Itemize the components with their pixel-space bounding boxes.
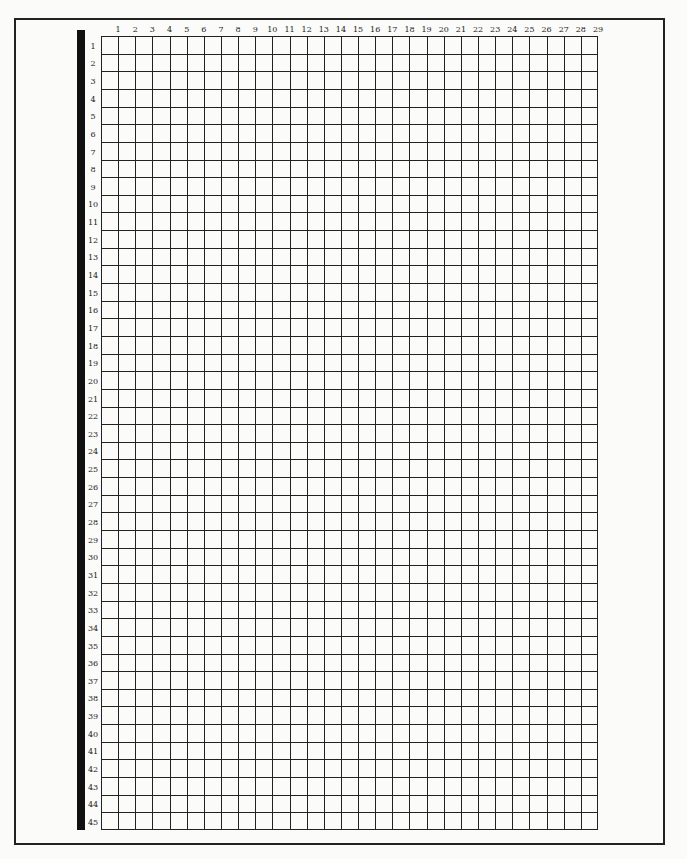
column-label: 28 — [576, 25, 586, 34]
column-label: 8 — [236, 25, 241, 34]
row-label: 20 — [86, 377, 100, 386]
row-label: 4 — [86, 95, 100, 104]
column-label: 14 — [336, 25, 346, 34]
column-label: 19 — [422, 25, 432, 34]
row-label: 27 — [86, 500, 100, 509]
row-label: 42 — [86, 765, 100, 774]
binding-bar — [77, 30, 85, 830]
column-label: 15 — [353, 25, 363, 34]
row-label: 10 — [86, 200, 100, 209]
row-label: 15 — [86, 289, 100, 298]
row-label: 30 — [86, 553, 100, 562]
row-label: 17 — [86, 324, 100, 333]
column-label: 18 — [404, 25, 414, 34]
row-label: 7 — [86, 148, 100, 157]
column-label: 13 — [319, 25, 329, 34]
row-label: 14 — [86, 271, 100, 280]
row-label: 29 — [86, 536, 100, 545]
row-label: 45 — [86, 818, 100, 827]
row-label: 3 — [86, 77, 100, 86]
column-label: 6 — [201, 25, 206, 34]
row-label: 18 — [86, 342, 100, 351]
row-label: 11 — [86, 218, 100, 227]
column-label: 17 — [387, 25, 397, 34]
row-label: 41 — [86, 747, 100, 756]
row-label: 21 — [86, 395, 100, 404]
row-label: 34 — [86, 624, 100, 633]
row-label: 6 — [86, 130, 100, 139]
row-label: 44 — [86, 800, 100, 809]
column-label: 1 — [116, 25, 121, 34]
row-label: 24 — [86, 447, 100, 456]
row-label: 25 — [86, 465, 100, 474]
column-label: 11 — [284, 25, 294, 34]
row-label: 35 — [86, 642, 100, 651]
row-label: 43 — [86, 783, 100, 792]
row-label: 33 — [86, 606, 100, 615]
row-label: 5 — [86, 112, 100, 121]
row-label: 12 — [86, 236, 100, 245]
column-label: 9 — [253, 25, 258, 34]
row-label: 36 — [86, 659, 100, 668]
column-label: 10 — [267, 25, 277, 34]
grid-lines — [101, 36, 598, 830]
column-label: 25 — [524, 25, 534, 34]
column-label: 5 — [184, 25, 189, 34]
row-label: 38 — [86, 694, 100, 703]
row-label: 26 — [86, 483, 100, 492]
row-label: 9 — [86, 183, 100, 192]
row-label: 40 — [86, 730, 100, 739]
row-label: 8 — [86, 165, 100, 174]
column-label: 29 — [593, 25, 603, 34]
column-label: 23 — [490, 25, 500, 34]
row-label: 32 — [86, 589, 100, 598]
row-label: 1 — [86, 42, 100, 51]
column-label: 16 — [370, 25, 380, 34]
column-label: 22 — [473, 25, 483, 34]
column-label: 2 — [133, 25, 138, 34]
row-label: 22 — [86, 412, 100, 421]
row-label: 13 — [86, 253, 100, 262]
column-label: 21 — [456, 25, 466, 34]
column-label: 26 — [541, 25, 551, 34]
column-label: 4 — [167, 25, 172, 34]
column-label: 24 — [507, 25, 517, 34]
row-label: 2 — [86, 59, 100, 68]
row-label: 31 — [86, 571, 100, 580]
row-label: 37 — [86, 677, 100, 686]
column-label: 27 — [559, 25, 569, 34]
row-label: 28 — [86, 518, 100, 527]
row-label: 23 — [86, 430, 100, 439]
column-label: 7 — [218, 25, 223, 34]
row-label: 16 — [86, 306, 100, 315]
column-label: 12 — [302, 25, 312, 34]
column-label: 3 — [150, 25, 155, 34]
row-label: 19 — [86, 359, 100, 368]
row-label: 39 — [86, 712, 100, 721]
column-label: 20 — [439, 25, 449, 34]
